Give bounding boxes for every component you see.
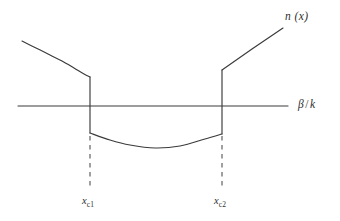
tick-label-xc2-subscript: c2: [219, 200, 226, 209]
curve-bottom-well: [90, 133, 222, 148]
curve-label-text: n (x): [285, 10, 308, 22]
curve-right-branch: [222, 28, 283, 70]
tick-label-xc1-subscript: c1: [87, 200, 94, 209]
curve-left-branch: [22, 41, 90, 77]
axis-label-beta-over-k: β/k: [298, 99, 316, 111]
curve-label-nx: n (x): [285, 11, 308, 23]
figure-container: n (x) β/k xc1 xc2: [0, 0, 340, 221]
tick-label-xc1: xc1: [82, 196, 94, 209]
axis-label-k: k: [310, 98, 316, 110]
figure-plot: [0, 0, 340, 221]
tick-label-xc2: xc2: [214, 196, 226, 209]
